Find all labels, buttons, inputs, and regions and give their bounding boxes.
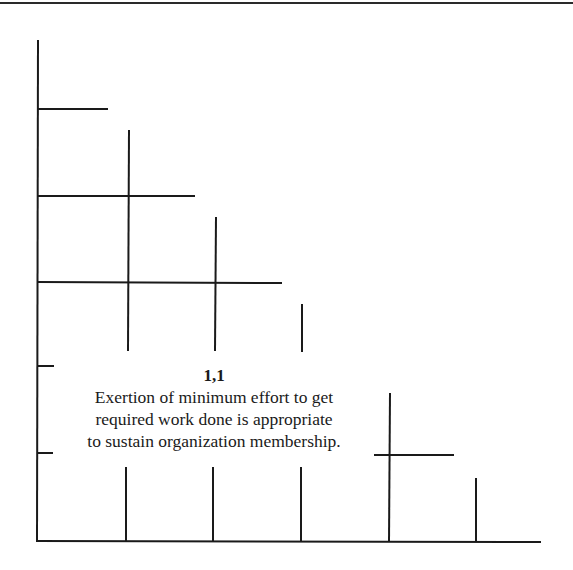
grid-horizontal-3	[38, 282, 282, 283]
y-axis	[37, 40, 38, 541]
x-axis	[36, 541, 541, 542]
grid-vertical-bottom-4	[389, 393, 390, 542]
description-line-3: to sustain organization membership.	[56, 430, 372, 452]
grid-vertical-1	[128, 130, 129, 351]
cell-description: Exertion of minimum effort to get requir…	[56, 386, 372, 452]
cell-label: 1,1	[56, 366, 372, 386]
cell-annotation: 1,1 Exertion of minimum effort to get re…	[56, 366, 372, 452]
description-line-2: required work done is appropriate	[56, 408, 372, 430]
description-line-1: Exertion of minimum effort to get	[56, 386, 372, 408]
grid-vertical-2	[215, 217, 216, 351]
managerial-grid-diagram	[0, 0, 573, 570]
